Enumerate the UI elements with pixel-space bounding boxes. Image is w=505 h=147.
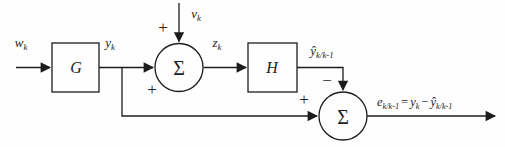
sum2-sign-left: + xyxy=(299,91,309,108)
yhat-sub: k/k-1 xyxy=(316,50,334,60)
filter-block-h-label: H xyxy=(266,60,278,76)
sum1-sigma: Σ xyxy=(173,58,185,78)
plant-block-g-label: G xyxy=(70,60,82,76)
output-equation: ek/k-1=yk−ŷk/k-1 xyxy=(377,96,452,109)
signal-label-yhat: ŷk/k-1 xyxy=(310,44,333,57)
wk-sub: k xyxy=(23,42,27,52)
wk-base: w xyxy=(15,35,24,50)
eq-equals: = xyxy=(399,95,410,109)
sum1-sign-top: + xyxy=(158,19,168,36)
signal-label-zk: zk xyxy=(213,36,222,49)
signal-label-vk: vk xyxy=(191,7,201,20)
eq-lhs-sub: k/k-1 xyxy=(383,102,400,111)
yk-sub: k xyxy=(111,42,115,52)
block-diagram: wk yk vk zk ŷk/k-1 G H Σ Σ + + − + ek/k-… xyxy=(0,0,505,147)
zk-sub: k xyxy=(218,42,222,52)
sum2-sign-top: − xyxy=(322,72,332,89)
signal-label-yk: yk xyxy=(105,36,115,49)
eq-minus: − xyxy=(419,95,430,109)
sum1-sign-left: + xyxy=(147,81,157,98)
arrow-yhat-into-sum2 xyxy=(297,68,343,91)
signal-label-wk: wk xyxy=(15,36,28,49)
sum2-sigma: Σ xyxy=(337,107,349,127)
vk-sub: k xyxy=(197,13,201,23)
eq-term2-sub: k/k-1 xyxy=(436,102,453,111)
